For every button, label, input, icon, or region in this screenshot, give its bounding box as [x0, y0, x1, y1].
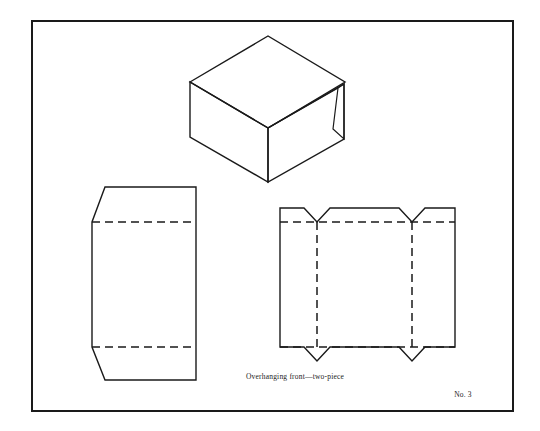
cover-blank-outline — [92, 187, 196, 380]
plate-caption: Overhanging front—two-piece — [246, 372, 345, 381]
tray-blank-outline — [280, 208, 455, 361]
illustration-plate: Overhanging front—two-piece No. 3 — [0, 0, 540, 431]
plate-border — [32, 21, 513, 411]
box-overhang-inner-edge — [268, 88, 338, 128]
plate-number: No. 3 — [454, 390, 472, 399]
perspective-box-figure — [190, 36, 345, 182]
box-design-drawing: Overhanging front—two-piece No. 3 — [0, 0, 540, 431]
box-overhang-sliver — [333, 84, 344, 139]
cover-blank-figure — [92, 187, 196, 380]
box-front-face — [268, 84, 344, 182]
box-left-face — [190, 82, 268, 182]
box-top-face — [190, 36, 345, 128]
tray-blank-figure — [280, 208, 455, 361]
